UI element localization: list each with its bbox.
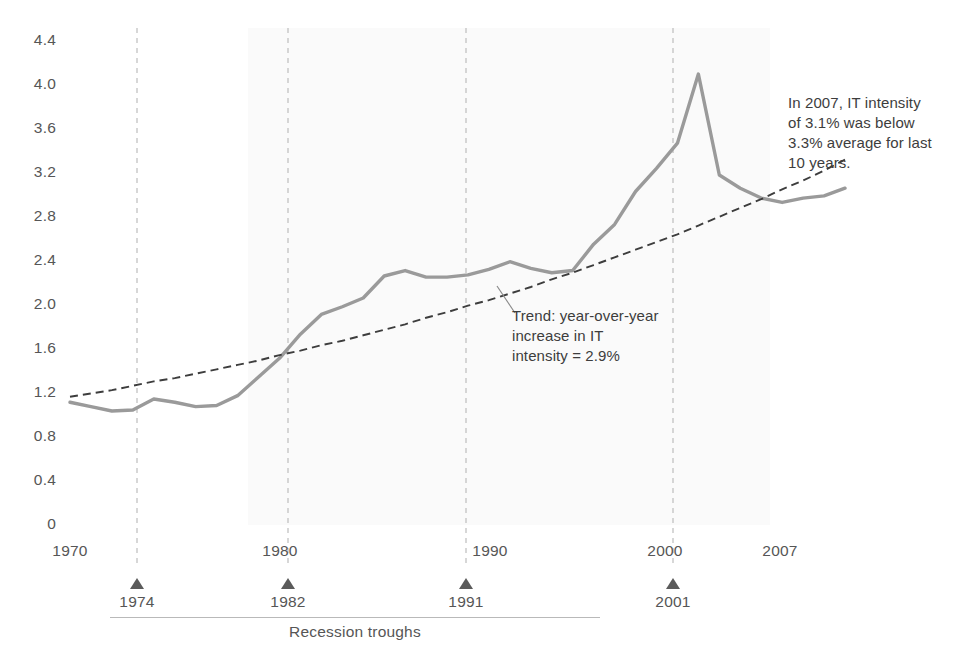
y-axis-tick-2-0: 2.0 (10, 296, 56, 312)
y-axis-tick-0-4: 0.4 (10, 472, 56, 488)
y-axis-tick-2-8: 2.8 (10, 208, 56, 224)
recession-label-1974: 1974 (102, 594, 172, 610)
y-axis-tick-3-6: 3.6 (10, 120, 56, 136)
y-axis-tick-1-6: 1.6 (10, 340, 56, 356)
recession-label-2001: 2001 (638, 594, 708, 610)
it-intensity-line (70, 74, 845, 411)
trend-line (70, 160, 845, 397)
y-axis-tick-4-0: 4.0 (10, 76, 56, 92)
trend-annotation-line-1: Trend: year-over-year (512, 306, 659, 326)
trend-annotation-line-3: intensity = 2.9% (512, 346, 659, 366)
x-axis-tick-1980: 1980 (245, 543, 315, 559)
y-axis-tick-3-2: 3.2 (10, 164, 56, 180)
recession-marker-2001 (666, 578, 680, 589)
recession-label-1982: 1982 (253, 594, 323, 610)
y-axis-tick-2-4: 2.4 (10, 252, 56, 268)
recession-marker-1974 (130, 578, 144, 589)
x-axis-tick-1970: 1970 (35, 543, 105, 559)
recession-marker-1982 (281, 578, 295, 589)
trend-annotation: Trend: year-over-year increase in IT int… (512, 306, 659, 366)
x-axis-tick-1990: 1990 (455, 543, 525, 559)
recession-troughs-caption: Recession troughs (275, 623, 435, 641)
trend-annotation-line-2: increase in IT (512, 326, 659, 346)
intensity-annotation-line-3: 3.3% average for last (788, 133, 932, 153)
y-axis-tick-0-8: 0.8 (10, 428, 56, 444)
x-axis-tick-2000: 2000 (630, 543, 700, 559)
intensity-annotation: In 2007, IT intensity of 3.1% was below … (788, 93, 932, 173)
recession-marker-1991 (459, 578, 473, 589)
x-axis-tick-2007: 2007 (745, 543, 815, 559)
chart-canvas: 4.4 4.0 3.6 3.2 2.8 2.4 2.0 1.6 1.2 0.8 … (0, 0, 968, 645)
intensity-annotation-line-1: In 2007, IT intensity (788, 93, 932, 113)
vertical-trough-guides (137, 28, 673, 566)
y-axis-tick-1-2: 1.2 (10, 384, 56, 400)
intensity-annotation-line-2: of 3.1% was below (788, 113, 932, 133)
recession-label-1991: 1991 (431, 594, 501, 610)
y-axis-tick-4-4: 4.4 (10, 32, 56, 48)
recession-axis-line (110, 617, 600, 618)
y-axis-tick-0: 0 (10, 516, 56, 532)
intensity-annotation-line-4: 10 years. (788, 153, 932, 173)
